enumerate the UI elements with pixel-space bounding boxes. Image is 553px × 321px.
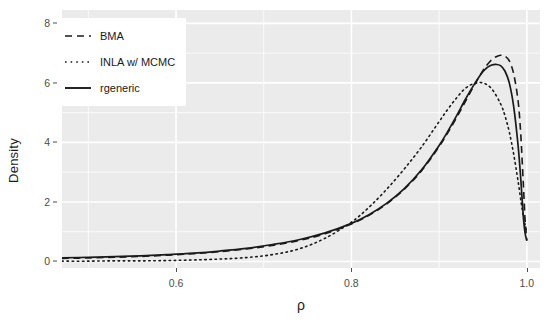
x-tick-mark xyxy=(176,268,177,272)
legend-key-dashed-icon xyxy=(63,28,93,44)
density-plot: Density 02468 0.60.81.0 ρ BMA INLA w/ MC… xyxy=(0,0,553,321)
x-axis-title: ρ xyxy=(62,297,540,313)
legend-key-dotted-icon xyxy=(63,54,93,70)
legend-item-rgeneric: rgeneric xyxy=(63,75,186,101)
x-tick-mark xyxy=(351,268,352,272)
legend-key-solid-icon xyxy=(63,80,93,96)
x-tick-label: 0.8 xyxy=(331,277,371,289)
legend: BMA INLA w/ MCMC rgeneric xyxy=(57,18,186,106)
x-tick-label: 0.6 xyxy=(156,277,196,289)
legend-item-bma: BMA xyxy=(63,23,186,49)
x-tick-label: 1.0 xyxy=(507,277,547,289)
legend-label-bma: BMA xyxy=(100,30,124,42)
legend-item-inla-mcmc: INLA w/ MCMC xyxy=(63,49,186,75)
legend-label-rgeneric: rgeneric xyxy=(100,82,140,94)
legend-label-inla-mcmc: INLA w/ MCMC xyxy=(100,56,175,68)
x-tick-mark xyxy=(527,268,528,272)
